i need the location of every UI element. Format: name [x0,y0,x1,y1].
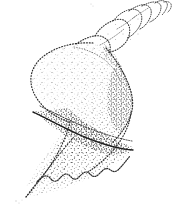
figure-root [0,0,181,224]
shell-illustration [0,0,181,224]
